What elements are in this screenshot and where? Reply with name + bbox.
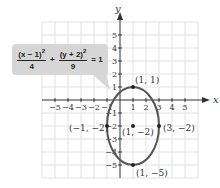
denominator-y: 9 [71, 61, 75, 71]
numerator-x: (x − 1) [18, 50, 41, 59]
x-axis-label: x [213, 94, 219, 105]
fraction-y: (y + 2)2 9 [59, 48, 88, 71]
label-center: (1, −2) [122, 127, 154, 137]
svg-text:4: 4 [169, 103, 174, 112]
label-right: (3, −2) [163, 123, 195, 133]
label-bottom: (1, −5) [136, 168, 168, 178]
svg-text:−4: −4 [62, 103, 74, 112]
fraction-x: (x − 1)2 4 [17, 48, 46, 71]
svg-text:5: 5 [182, 103, 187, 112]
svg-text:2: 2 [143, 103, 148, 112]
equation-callout: (x − 1)2 4 + (y + 2)2 9 = 1 [12, 44, 108, 75]
x-tick-labels: −5 −4 −3 −2 −1 1 2 3 4 5 [49, 103, 187, 112]
svg-text:2: 2 [112, 70, 117, 79]
exponent-y: 2 [83, 48, 86, 54]
svg-text:−3: −3 [75, 103, 87, 112]
exponent-x: 2 [42, 48, 45, 54]
svg-text:1: 1 [112, 83, 117, 92]
point-bottom [131, 163, 135, 167]
denominator-x: 4 [29, 61, 33, 71]
point-right [157, 124, 161, 128]
label-left: (−1, −2) [69, 123, 108, 133]
y-axis-label: y [114, 3, 121, 14]
numerator-y: (y + 2) [60, 50, 83, 59]
x-axis-arrow-icon [202, 97, 210, 103]
point-top [131, 85, 135, 89]
svg-text:−5: −5 [105, 161, 117, 170]
svg-text:1: 1 [130, 103, 135, 112]
svg-text:5: 5 [112, 31, 117, 40]
point-labels: (1, 1) (−1, −2) (1, −2) (3, −2) (1, −5) [69, 75, 195, 178]
equals-one: = 1 [91, 55, 102, 64]
svg-text:3: 3 [112, 57, 117, 66]
svg-text:4: 4 [112, 44, 117, 53]
svg-text:−5: −5 [49, 103, 61, 112]
svg-text:−2: −2 [88, 103, 100, 112]
label-top: (1, 1) [135, 75, 159, 85]
ellipse-graph: x y −5 −4 −3 −2 −1 1 2 3 4 5 5 4 3 2 1 −… [0, 0, 220, 188]
plus-sign: + [50, 55, 55, 64]
